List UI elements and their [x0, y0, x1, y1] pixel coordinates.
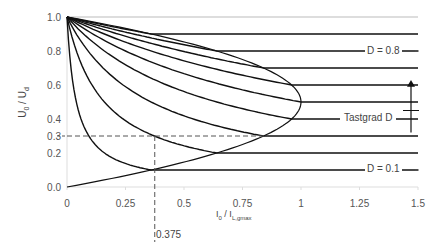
- x-tick-label: 1.5: [411, 198, 425, 209]
- y-label-sub1: d: [23, 87, 30, 91]
- y-tick-label: 1.0: [47, 12, 61, 23]
- annotation-d-high: D = 0.8: [365, 45, 402, 56]
- x-tick-label: 0.75: [233, 198, 253, 209]
- boundary-curve: [67, 17, 301, 187]
- x-tick-label: 1.25: [350, 198, 370, 209]
- y-tick-label: 0.6: [47, 80, 61, 91]
- x-tick-label: 1: [298, 198, 304, 209]
- y-label-main: U: [17, 111, 28, 118]
- x-tick-label: 0.25: [116, 198, 136, 209]
- y-tick-label: 0.2: [47, 148, 61, 159]
- y-tick-label: 0.0: [47, 182, 61, 193]
- y-label-sub0: 0: [23, 107, 30, 111]
- curve-d-0.7: [67, 17, 418, 68]
- x-label-mid: / I: [222, 209, 232, 219]
- annotation-tastgrad: Tastgrad D: [340, 112, 396, 123]
- arrow-up-icon: [407, 80, 415, 87]
- y-tick-label: 0.8: [47, 46, 61, 57]
- x-label-sub1: L,gmax: [232, 215, 252, 221]
- x-tick-label: 0.5: [177, 198, 191, 209]
- x-axis-label: I0 / IL,gmax: [216, 209, 252, 221]
- y-axis-label: U0 / Ud: [17, 78, 30, 128]
- y-label-mid: / U: [17, 91, 28, 107]
- annotation-marker-x: 0.375: [156, 229, 181, 240]
- x-tick-label: 0: [64, 198, 70, 209]
- y-tick-label: 0.4: [47, 114, 61, 125]
- annotation-d-low: D = 0.1: [365, 163, 402, 174]
